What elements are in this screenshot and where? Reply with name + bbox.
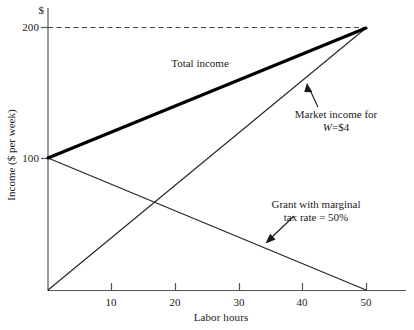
grant-label-line2: tax rate = 50% [272, 211, 361, 224]
market-income-wage-symbol: W [323, 121, 332, 133]
total-income-line [48, 28, 366, 158]
x-tick-label-10: 10 [105, 296, 116, 308]
y-axis-title: Income ($ per week) [5, 109, 17, 200]
y-tick-label-200: 200 [22, 21, 39, 33]
x-tick-label-50: 50 [360, 296, 371, 308]
budget-constraint-chart: $ 200 100 10 20 30 40 50 Income ($ per w… [0, 0, 414, 330]
x-axis-title: Labor hours [194, 311, 249, 323]
chart-plot-area [0, 0, 414, 330]
grant-label-line1: Grant with marginal [272, 198, 361, 211]
total-income-label: Total income [171, 57, 229, 70]
market-income-wage-value: =$4 [332, 121, 349, 133]
grant-line [48, 158, 366, 290]
x-tick-label-20: 20 [169, 296, 180, 308]
y-axis-dollar-marker: $ [38, 4, 44, 16]
grant-label: Grant with marginal tax rate = 50% [272, 198, 361, 224]
market-income-label-line1: Market income for [295, 108, 377, 121]
market-income-label: Market income for W=$4 [295, 108, 377, 134]
x-tick-label-30: 30 [233, 296, 244, 308]
y-tick-label-100: 100 [22, 152, 39, 164]
market-income-arrow-head [304, 83, 312, 92]
market-income-label-line2: W=$4 [295, 121, 377, 134]
x-tick-label-40: 40 [296, 296, 307, 308]
